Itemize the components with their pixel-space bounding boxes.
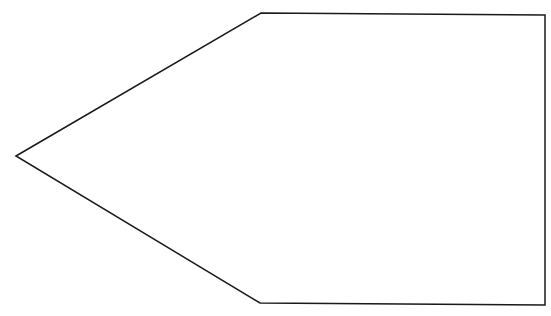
pentagon-shape bbox=[16, 13, 545, 305]
diagram-canvas bbox=[0, 0, 551, 316]
diagram-svg bbox=[0, 0, 551, 316]
